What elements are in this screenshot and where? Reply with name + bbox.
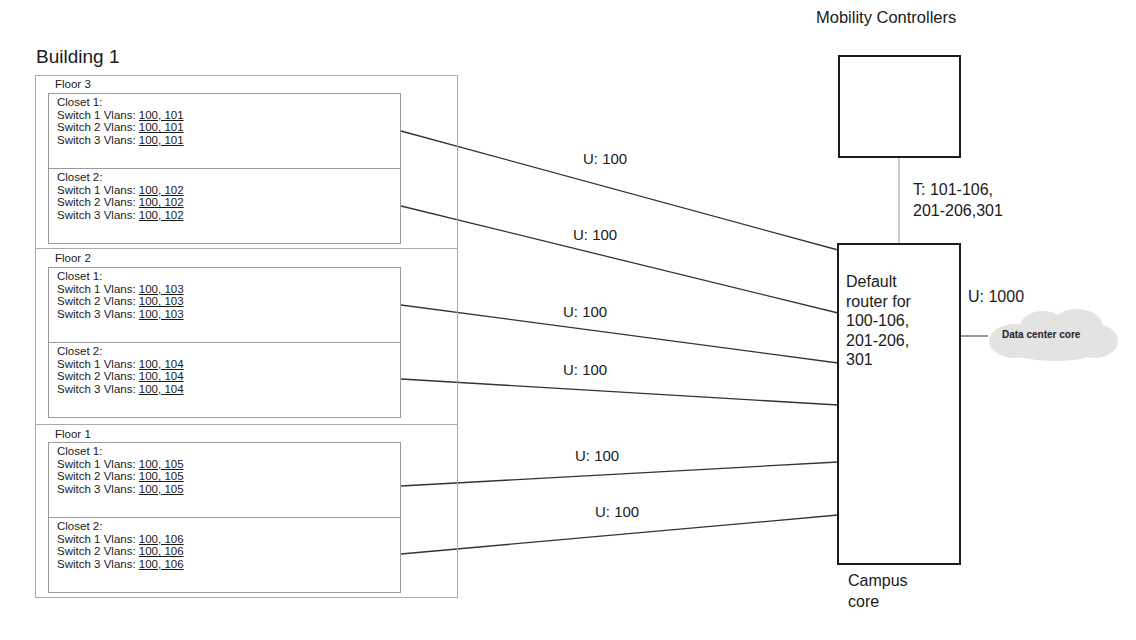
vlan-link[interactable]: 100, 102 [139,209,184,221]
vlan-link[interactable]: 100, 101 [139,134,184,146]
link-line-f2-c1 [401,305,838,363]
floor-divider [35,424,458,425]
closet-box: Closet 1: Switch 1 Vlans: 100, 103 Switc… [48,267,401,343]
closet-label: Closet 2: [57,520,400,533]
mobility-controllers-title: Mobility Controllers [816,8,956,27]
switch-row: Switch 2 Vlans: 100, 103 [57,295,400,308]
closet-label: Closet 2: [57,171,400,184]
link-label: U: 100 [583,150,627,167]
closet-box: Closet 1: Switch 1 Vlans: 100, 105 Switc… [48,442,401,518]
link-label: U: 100 [595,503,639,520]
vlan-link[interactable]: 100, 105 [139,483,184,495]
switch-row: Switch 1 Vlans: 100, 101 [57,109,400,122]
vlan-link[interactable]: 100, 101 [139,109,184,121]
vlan-link[interactable]: 100, 106 [139,545,184,557]
switch-row: Switch 2 Vlans: 100, 106 [57,545,400,558]
link-line-f3-c2 [401,206,838,313]
link-line-f3-c1 [401,131,838,250]
switch-row: Switch 1 Vlans: 100, 105 [57,458,400,471]
switch-row: Switch 3 Vlans: 100, 106 [57,558,400,571]
switch-row: Switch 3 Vlans: 100, 104 [57,383,400,396]
trunk-label: T: 101-106, 201-206,301 [913,179,1003,221]
switch-row: Switch 2 Vlans: 100, 102 [57,196,400,209]
closet-box: Closet 2: Switch 1 Vlans: 100, 104 Switc… [48,342,401,418]
mobility-controllers-box[interactable] [838,55,961,158]
switch-row: Switch 1 Vlans: 100, 106 [57,533,400,546]
closet-box: Closet 1: Switch 1 Vlans: 100, 101 Switc… [48,93,401,169]
closet-label: Closet 2: [57,345,400,358]
switch-row: Switch 3 Vlans: 100, 105 [57,483,400,496]
floor-divider [35,248,458,249]
vlan-link[interactable]: 100, 105 [139,470,184,482]
link-label: U: 100 [575,447,619,464]
switch-row: Switch 2 Vlans: 100, 105 [57,470,400,483]
closet-box: Closet 2: Switch 1 Vlans: 100, 106 Switc… [48,517,401,593]
vlan-link[interactable]: 100, 102 [139,196,184,208]
campus-core-label: Campus core [848,570,908,612]
closet-label: Closet 1: [57,96,400,109]
link-line-f1-c2 [401,515,838,554]
vlan-link[interactable]: 100, 106 [139,558,184,570]
data-center-core-label: Data center core [1002,329,1080,340]
switch-row: Switch 3 Vlans: 100, 103 [57,308,400,321]
vlan-link[interactable]: 100, 104 [139,358,184,370]
floor-label: Floor 1 [55,428,91,440]
link-label: U: 100 [563,361,607,378]
switch-row: Switch 2 Vlans: 100, 101 [57,121,400,134]
switch-row: Switch 3 Vlans: 100, 101 [57,134,400,147]
router-description: Default router for 100-106, 201-206, 301 [846,272,911,370]
floor-label: Floor 3 [55,78,91,90]
uplink-label: U: 1000 [968,288,1024,306]
vlan-link[interactable]: 100, 104 [139,383,184,395]
vlan-link[interactable]: 100, 101 [139,121,184,133]
vlan-link[interactable]: 100, 104 [139,370,184,382]
vlan-link[interactable]: 100, 103 [139,295,184,307]
floor-label: Floor 2 [55,252,91,264]
link-label: U: 100 [563,303,607,320]
link-line-f1-c1 [401,462,838,486]
link-label: U: 100 [573,226,617,243]
link-line-f2-c2 [401,379,838,405]
vlan-link[interactable]: 100, 106 [139,533,184,545]
closet-box: Closet 2: Switch 1 Vlans: 100, 102 Switc… [48,168,401,244]
vlan-link[interactable]: 100, 103 [139,308,184,320]
vlan-link[interactable]: 100, 105 [139,458,184,470]
closet-label: Closet 1: [57,270,400,283]
vlan-link[interactable]: 100, 103 [139,283,184,295]
switch-row: Switch 1 Vlans: 100, 102 [57,184,400,197]
switch-row: Switch 2 Vlans: 100, 104 [57,370,400,383]
vlan-link[interactable]: 100, 102 [139,184,184,196]
switch-row: Switch 1 Vlans: 100, 103 [57,283,400,296]
switch-row: Switch 1 Vlans: 100, 104 [57,358,400,371]
closet-label: Closet 1: [57,445,400,458]
building-title: Building 1 [36,46,119,68]
switch-row: Switch 3 Vlans: 100, 102 [57,209,400,222]
